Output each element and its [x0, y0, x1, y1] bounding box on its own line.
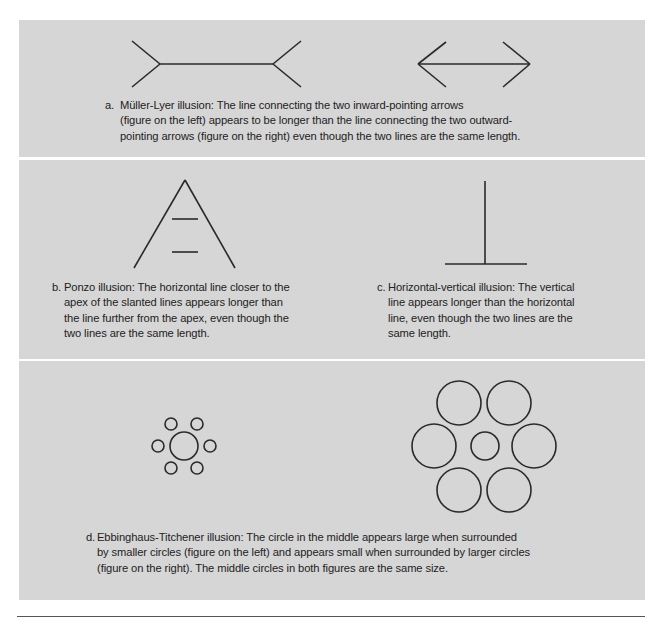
caption-horizontal-vertical: c. Horizontal-vertical illusion: The ver…: [377, 280, 597, 342]
caption-line: (figure on the right). The middle circle…: [86, 561, 586, 576]
caption-line: Horizontal-vertical illusion: The vertic…: [377, 280, 597, 295]
caption-line: Müller-Lyer illusion: The line connectin…: [105, 98, 625, 113]
caption-line: the line further from the apex, even tho…: [52, 311, 302, 326]
caption-ponzo: b. Ponzo illusion: The horizontal line c…: [52, 280, 302, 342]
caption-line: Ponzo illusion: The horizontal line clos…: [52, 280, 302, 295]
caption-label: b.: [52, 280, 61, 295]
caption-line: two lines are the same length.: [52, 326, 302, 341]
caption-muller-lyer: a. Müller-Lyer illusion: The line connec…: [105, 98, 625, 144]
caption-ebbinghaus: d. Ebbinghaus-Titchener illusion: The ci…: [86, 530, 586, 576]
panel-ebbinghaus: d. Ebbinghaus-Titchener illusion: The ci…: [19, 361, 645, 600]
caption-line: by smaller circles (figure on the left) …: [86, 545, 586, 560]
muller-lyer-right-figure: [418, 42, 530, 87]
caption-label: c.: [377, 280, 386, 295]
caption-line: Ebbinghaus-Titchener illusion: The circl…: [86, 530, 586, 545]
panel-muller-lyer: a. Müller-Lyer illusion: The line connec…: [19, 20, 645, 157]
caption-line: apex of the slanted lines appears longer…: [52, 295, 302, 310]
caption-line: line, even though the two lines are the: [377, 311, 597, 326]
caption-line: (figure on the left) appears to be longe…: [105, 113, 625, 128]
ebbinghaus-right-figure: [412, 381, 556, 512]
caption-label: a.: [105, 98, 114, 113]
muller-lyer-left-figure: [132, 41, 301, 87]
horizontal-vertical-figure: [445, 181, 527, 264]
caption-line: pointing arrows (figure on the right) ev…: [105, 129, 625, 144]
caption-line: same length.: [377, 326, 597, 341]
ponzo-figure: [134, 180, 235, 268]
caption-line: line appears longer than the horizontal: [377, 295, 597, 310]
panel-ponzo-horizontal-vertical: b. Ponzo illusion: The horizontal line c…: [19, 160, 645, 359]
ebbinghaus-left-figure: [152, 418, 216, 474]
caption-label: d.: [86, 530, 95, 545]
bottom-rule: [17, 616, 645, 617]
